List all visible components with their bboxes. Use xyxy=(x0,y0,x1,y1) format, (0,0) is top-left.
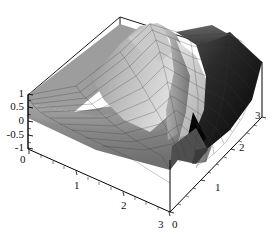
x-tick-label-0: 0 xyxy=(20,154,26,165)
z-tick-label-0point5: 0.5 xyxy=(0,101,24,112)
x-tick-label-1: 1 xyxy=(74,180,80,191)
z-tick-label-minus0point5: -0.5 xyxy=(0,129,24,140)
x-tick-label-3: 3 xyxy=(158,219,164,230)
z-tick-label-1: 1 xyxy=(2,88,24,99)
surface-mesh xyxy=(28,23,262,183)
y-tick-label-1: 1 xyxy=(215,182,221,193)
plot-canvas xyxy=(0,0,277,237)
x-tick-label-2: 2 xyxy=(121,200,127,211)
z-tick-label-0: 0 xyxy=(2,115,24,126)
y-tick-label-3: 3 xyxy=(255,110,261,121)
y-tick-label-0: 0 xyxy=(172,219,178,230)
surface-plot-figure: 1 0.5 0 -0.5 -1 0 1 2 3 0 1 2 3 xyxy=(0,0,277,237)
y-tick-label-2: 2 xyxy=(239,142,245,153)
z-tick-label-minus1: -1 xyxy=(2,142,24,153)
x-axis-minor-ticks xyxy=(41,155,158,210)
